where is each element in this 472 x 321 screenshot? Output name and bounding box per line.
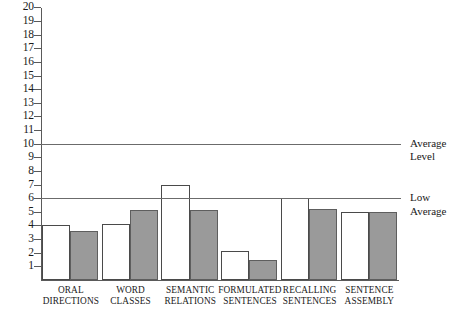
reference-line-1 [41,144,401,145]
bar-gray-1 [70,231,98,280]
bar-gray-2 [130,210,158,280]
bar-white-2 [102,224,130,280]
bar-white-5 [281,198,309,280]
category-label-line: SENTENCE [333,285,407,296]
bar-gray-5 [309,209,337,280]
bar-gray-3 [190,210,218,280]
category-label-line: ASSEMBLY [333,296,407,307]
bar-gray-6 [369,212,397,280]
reference-line-2 [41,198,401,199]
bar-white-6 [341,212,369,280]
bar-white-4 [221,251,249,280]
category-label-6: SENTENCEASSEMBLY [333,285,407,307]
bar-gray-4 [249,260,277,280]
bar-white-1 [42,225,70,280]
bar-chart: 1234567891011121314151617181920 AverageL… [0,0,472,321]
